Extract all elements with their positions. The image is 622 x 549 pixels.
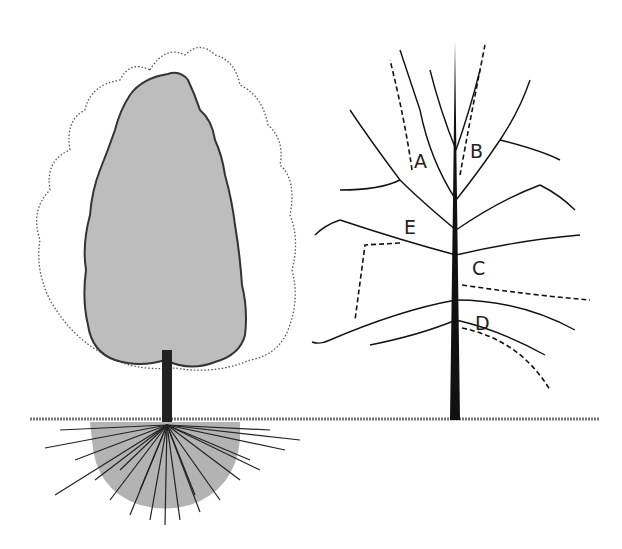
tree-illustration: A B C D E xyxy=(0,0,622,549)
label-d: D xyxy=(475,312,490,334)
current-crown xyxy=(84,73,246,367)
label-e: E xyxy=(404,216,416,238)
label-b: B xyxy=(470,140,483,162)
label-a: A xyxy=(414,150,427,172)
label-c: C xyxy=(472,257,485,279)
branch-structure xyxy=(312,50,580,355)
left-trunk xyxy=(162,350,172,425)
